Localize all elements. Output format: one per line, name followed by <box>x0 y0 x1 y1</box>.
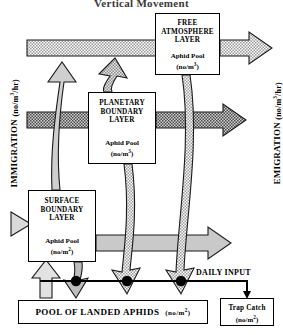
junction-node-planetary <box>122 276 132 286</box>
junction-node-free-atmosphere <box>176 276 186 286</box>
junction-node-surface <box>71 276 81 286</box>
diagram-canvas: Vertical Movement <box>0 0 283 335</box>
flow-arrows-foreground <box>0 0 283 335</box>
daily-input-label: DAILY INPUT <box>196 268 251 277</box>
